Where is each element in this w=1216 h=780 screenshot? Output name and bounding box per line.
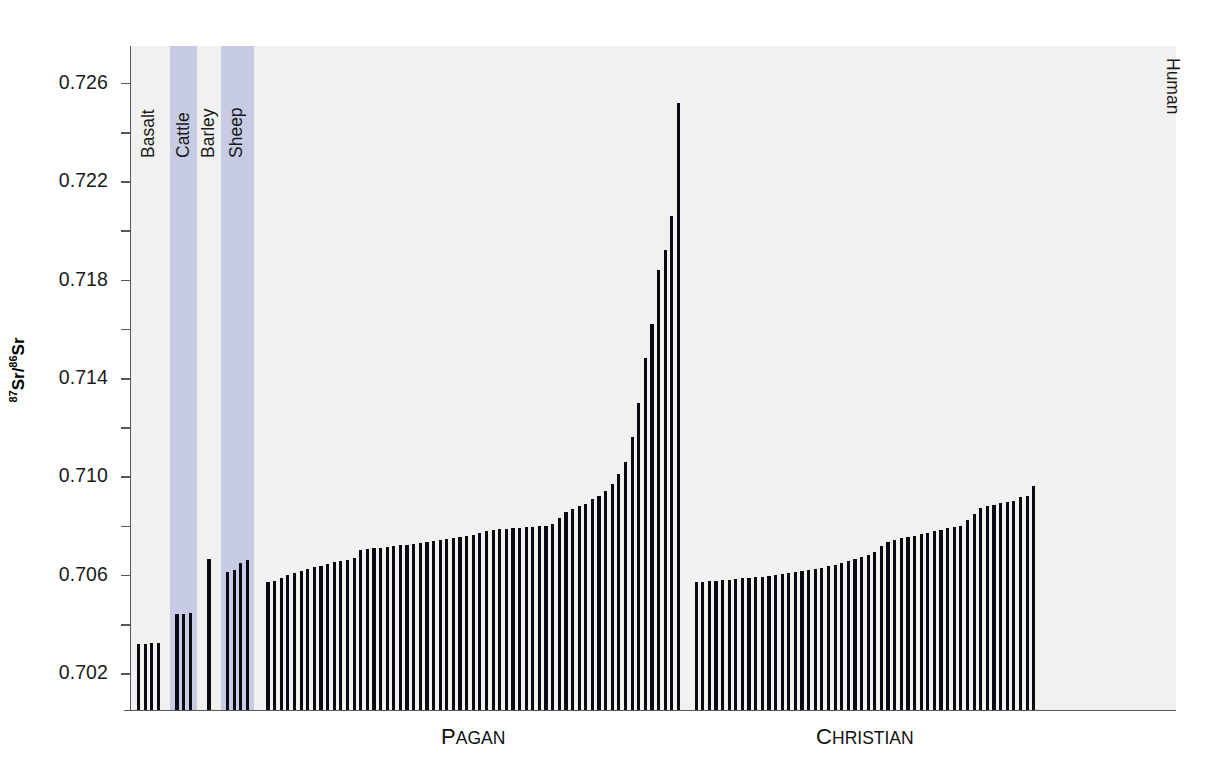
bar [873, 552, 876, 710]
bar [246, 560, 249, 710]
bar [445, 539, 448, 710]
bar [913, 536, 916, 710]
y-axis-tick-minor [121, 526, 130, 528]
bar [551, 524, 554, 710]
bar [175, 614, 178, 710]
bar [781, 574, 784, 710]
y-axis-tick-label: 0.710 [59, 466, 108, 486]
bar-series [131, 46, 1176, 710]
bar [584, 504, 587, 710]
bar [670, 216, 673, 710]
bar [880, 546, 883, 710]
bar [644, 358, 647, 710]
bar [953, 527, 956, 710]
bar [399, 545, 402, 710]
bar [518, 528, 521, 710]
y-axis-tick-label: 0.722 [59, 171, 108, 191]
bar [531, 527, 534, 710]
bar [807, 570, 810, 710]
bar [478, 533, 481, 710]
y-axis-tick-label: 0.714 [59, 368, 108, 388]
bar [1006, 502, 1009, 710]
bar [492, 530, 495, 710]
bar [933, 531, 936, 710]
bar [339, 561, 342, 710]
bar [631, 437, 634, 710]
bar [677, 103, 680, 710]
bar [728, 580, 731, 710]
bar [814, 569, 817, 710]
y-axis-tick-minor [121, 427, 130, 429]
y-axis-tick-group [112, 46, 130, 710]
bar [359, 550, 362, 710]
bar [157, 643, 160, 710]
category-label-human: Human [1163, 58, 1181, 114]
y-axis-tick-minor [121, 230, 130, 232]
bar [405, 545, 408, 710]
bar [538, 526, 541, 710]
bar [485, 531, 488, 710]
y-axis-tick-major [121, 673, 130, 675]
bar [664, 250, 667, 710]
bar [695, 582, 698, 710]
bar [319, 566, 322, 710]
bar [767, 576, 770, 710]
bar [458, 537, 461, 710]
bar [558, 518, 561, 710]
y-axis-tick-label: 0.702 [59, 663, 108, 683]
bar [564, 512, 567, 710]
bar [137, 644, 140, 710]
y-axis-tick-minor [121, 329, 130, 331]
bar [966, 520, 969, 710]
y-axis-tick-label-group: 0.7020.7060.7100.7140.7180.7220.726 [0, 46, 108, 710]
bar [741, 578, 744, 710]
category-label-basalt: Basalt [140, 109, 158, 158]
y-axis-tick-major [121, 575, 130, 577]
y-axis-tick-major [121, 476, 130, 478]
bar [999, 503, 1002, 710]
strontium-isotope-bar-chart: 87Sr/86Sr 0.7020.7060.7100.7140.7180.722… [0, 0, 1216, 780]
bar [637, 403, 640, 710]
bar [300, 571, 303, 710]
bar [754, 577, 757, 710]
bar [986, 506, 989, 710]
bar [346, 560, 349, 711]
group-label-pagan: PAGAN [441, 726, 505, 748]
bar [525, 527, 528, 710]
bar [432, 541, 435, 710]
bar [505, 529, 508, 710]
bar [392, 546, 395, 710]
bar [657, 270, 660, 710]
bar [233, 570, 236, 710]
bar [860, 557, 863, 710]
bar [611, 484, 614, 710]
bar [207, 559, 210, 710]
bar [465, 536, 468, 710]
bar [992, 505, 995, 710]
bar [273, 581, 276, 710]
bar [834, 565, 837, 710]
bar [353, 558, 356, 710]
bar [708, 581, 711, 710]
bar [959, 526, 962, 710]
bar [544, 526, 547, 710]
y-axis-tick-label: 0.706 [59, 565, 108, 585]
y-axis-tick-major [121, 378, 130, 380]
bar [286, 575, 289, 710]
bar [511, 528, 514, 710]
bar [867, 555, 870, 710]
bar [386, 547, 389, 710]
y-axis-tick-minor [121, 132, 130, 134]
bar [412, 544, 415, 710]
bar [372, 548, 375, 710]
y-axis-tick-major [121, 181, 130, 183]
bar [939, 530, 942, 711]
bar [906, 537, 909, 710]
bar [734, 579, 737, 710]
bar [1032, 486, 1035, 710]
category-label-sheep: Sheep [229, 107, 247, 158]
bar [293, 573, 296, 710]
bar [425, 542, 428, 710]
bar [787, 573, 790, 710]
bar [886, 542, 889, 710]
